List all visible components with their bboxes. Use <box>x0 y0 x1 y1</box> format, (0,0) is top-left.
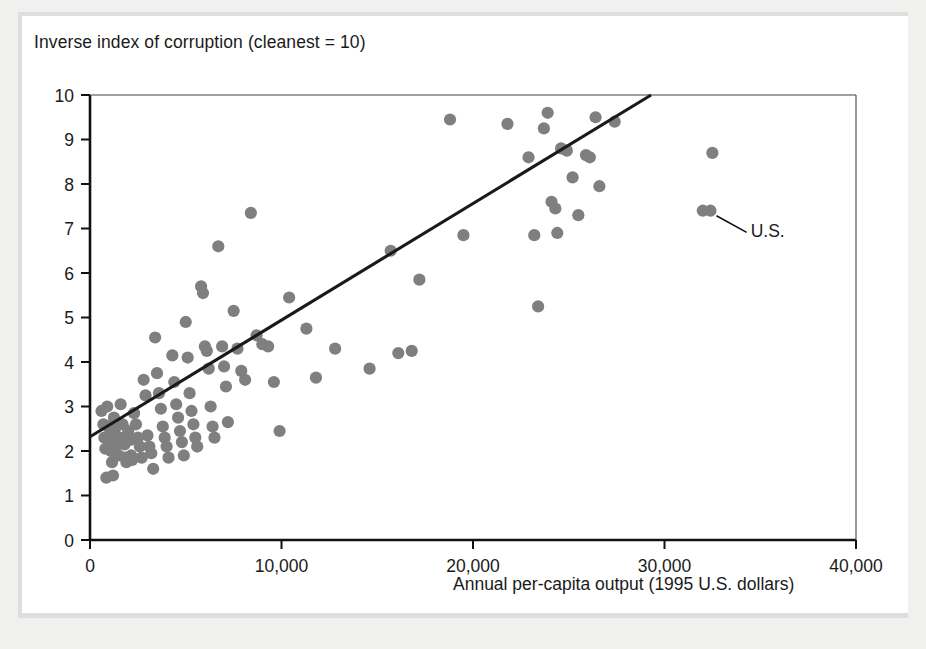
data-point <box>239 374 251 386</box>
data-point <box>228 305 240 317</box>
data-point <box>141 429 153 441</box>
data-point <box>185 405 197 417</box>
data-point <box>220 380 232 392</box>
data-point <box>584 151 596 163</box>
data-point <box>172 412 184 424</box>
axes-layer: 012345678910010,00020,00030,00040,000 <box>55 86 883 577</box>
data-point <box>208 432 220 444</box>
trendline-layer <box>90 95 651 437</box>
data-point <box>300 323 312 335</box>
data-point <box>149 331 161 343</box>
data-point <box>329 343 341 355</box>
data-point <box>406 345 418 357</box>
data-point <box>704 205 716 217</box>
data-point <box>205 400 217 412</box>
x-tick-label: 10,000 <box>255 556 309 576</box>
annotation-leader-line <box>716 216 746 233</box>
data-point <box>528 229 540 241</box>
data-point <box>413 274 425 286</box>
data-point <box>363 363 375 375</box>
y-tick-label: 5 <box>64 308 74 328</box>
data-point <box>245 207 257 219</box>
figure-root: Inverse index of corruption (cleanest = … <box>0 0 926 649</box>
data-point <box>101 400 113 412</box>
data-point <box>444 113 456 125</box>
data-point <box>180 316 192 328</box>
data-point <box>538 122 550 134</box>
y-tick-label: 1 <box>64 486 74 506</box>
data-point <box>273 425 285 437</box>
data-point <box>589 111 601 123</box>
x-axis-label: Annual per-capita output (1995 U.S. doll… <box>453 574 794 595</box>
annotation-label: U.S. <box>751 221 785 241</box>
data-point <box>115 398 127 410</box>
data-point <box>162 452 174 464</box>
data-point <box>212 240 224 252</box>
data-point <box>182 351 194 363</box>
data-point <box>392 347 404 359</box>
data-point <box>501 118 513 130</box>
data-point <box>174 425 186 437</box>
data-point <box>176 436 188 448</box>
x-tick-label: 30,000 <box>638 556 692 576</box>
y-tick-label: 6 <box>64 264 74 284</box>
y-tick-label: 7 <box>64 219 74 239</box>
data-points-layer <box>95 107 718 484</box>
x-tick-label: 20,000 <box>446 556 500 576</box>
data-point <box>522 151 534 163</box>
data-point <box>310 371 322 383</box>
data-point <box>283 291 295 303</box>
data-point <box>151 367 163 379</box>
data-point <box>532 300 544 312</box>
data-point <box>183 387 195 399</box>
data-point <box>268 376 280 388</box>
trendline <box>90 95 651 437</box>
data-point <box>170 398 182 410</box>
data-point <box>218 360 230 372</box>
data-point <box>542 107 554 119</box>
data-point <box>216 340 228 352</box>
data-point <box>566 171 578 183</box>
y-tick-label: 10 <box>55 86 75 106</box>
data-point <box>572 209 584 221</box>
data-point <box>166 349 178 361</box>
data-point <box>138 374 150 386</box>
data-point <box>191 440 203 452</box>
data-point <box>197 287 209 299</box>
data-point <box>593 180 605 192</box>
data-point <box>206 420 218 432</box>
data-point <box>130 418 142 430</box>
data-point <box>706 147 718 159</box>
y-tick-label: 0 <box>64 531 74 551</box>
data-point <box>187 418 199 430</box>
y-tick-label: 8 <box>64 175 74 195</box>
data-point <box>161 440 173 452</box>
data-point <box>457 229 469 241</box>
y-tick-label: 9 <box>64 130 74 150</box>
data-point <box>107 469 119 481</box>
x-tick-label: 0 <box>85 556 95 576</box>
y-tick-label: 2 <box>64 442 74 462</box>
data-point <box>222 416 234 428</box>
data-point <box>201 345 213 357</box>
data-point <box>147 463 159 475</box>
data-point <box>157 420 169 432</box>
scatter-plot: 012345678910010,00020,00030,00040,000 U.… <box>0 0 926 649</box>
y-tick-label: 4 <box>64 353 74 373</box>
data-point <box>549 202 561 214</box>
data-point <box>178 449 190 461</box>
data-point <box>551 227 563 239</box>
y-tick-label: 3 <box>64 397 74 417</box>
data-point <box>262 340 274 352</box>
data-point <box>155 403 167 415</box>
x-tick-label: 40,000 <box>829 556 883 576</box>
data-point <box>145 447 157 459</box>
annotation-layer: U.S. <box>716 216 784 242</box>
